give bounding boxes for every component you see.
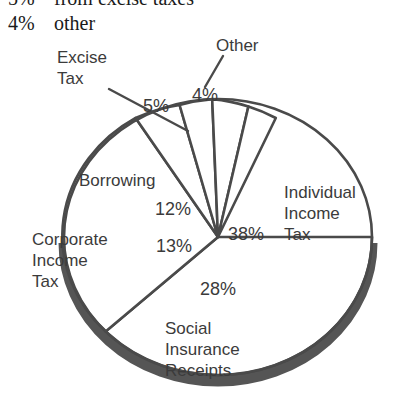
slice-label-other: Other (216, 36, 259, 56)
slice-label-other-text: Other (216, 36, 259, 55)
slice-value-excise-tax-text: 5% (143, 96, 169, 116)
slice-value-borrowing: 12% (155, 199, 191, 219)
slice-label-social-insurance-receipts-line-3: Receipts (165, 360, 240, 381)
slice-label-social-insurance-receipts-line-2: Insurance (165, 339, 240, 360)
slice-label-social-insurance-receipts-line-1: Social (165, 318, 240, 339)
slice-label-corporate-income-tax: Corporate Income Tax (32, 229, 108, 292)
slice-label-individual-income-tax: Individual Income Tax (284, 182, 356, 245)
slice-value-individual-income-tax: 38% (228, 224, 264, 244)
slice-value-corporate-income-tax-text: 13% (156, 236, 192, 256)
slice-label-corporate-income-tax-line-3: Tax (32, 271, 108, 292)
slice-label-excise-tax-line-1: Excise (57, 47, 107, 68)
slice-value-social-insurance-receipts-text: 28% (200, 279, 236, 299)
pie-chart-figure: 5%from excise taxes 4%other Excise Tax O… (0, 0, 395, 418)
slice-label-borrowing: Borrowing (79, 171, 156, 191)
slice-label-individual-income-tax-line-1: Individual (284, 182, 356, 203)
slice-value-social-insurance-receipts: 28% (200, 279, 236, 299)
slice-label-excise-tax-line-2: Tax (57, 68, 107, 89)
slice-label-excise-tax: Excise Tax (57, 47, 107, 89)
slice-label-corporate-income-tax-line-2: Income (32, 250, 108, 271)
slice-value-individual-income-tax-text: 38% (228, 224, 264, 244)
slice-value-borrowing-text: 12% (155, 199, 191, 219)
slice-label-corporate-income-tax-line-1: Corporate (32, 229, 108, 250)
slice-value-excise-tax: 5% (143, 96, 169, 116)
slice-label-borrowing-text: Borrowing (79, 171, 156, 190)
slice-value-other: 4% (192, 85, 218, 105)
slice-label-individual-income-tax-line-2: Income (284, 203, 356, 224)
slice-value-other-text: 4% (192, 85, 218, 105)
slice-label-social-insurance-receipts: Social Insurance Receipts (165, 318, 240, 381)
slice-value-corporate-income-tax: 13% (156, 236, 192, 256)
other-leader-line (205, 56, 223, 87)
slice-label-individual-income-tax-line-3: Tax (284, 224, 356, 245)
